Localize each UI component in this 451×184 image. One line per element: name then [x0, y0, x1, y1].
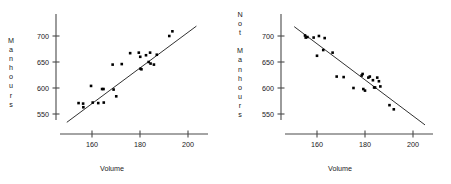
- y-axis-tick-label: 600: [37, 84, 49, 93]
- scatter-point: [335, 75, 338, 78]
- plot-area-left: 550600650700160180200: [0, 0, 225, 184]
- scatter-point: [331, 51, 334, 54]
- scatter-point: [111, 63, 114, 66]
- scatter-point: [82, 102, 85, 105]
- scatter-point: [388, 104, 391, 107]
- figure-root: M a n h o u r s Volume 55060065070016018…: [0, 0, 451, 184]
- regression-line: [67, 26, 197, 122]
- scatter-point: [91, 101, 94, 104]
- scatter-point: [369, 75, 372, 78]
- scatter-point: [149, 62, 152, 65]
- x-axis-tick-label: 160: [86, 140, 98, 149]
- scatter-point: [316, 54, 319, 57]
- scatter-point: [322, 49, 325, 52]
- y-axis-tick-label: 550: [262, 110, 274, 119]
- x-axis-tick-label: 200: [182, 140, 194, 149]
- scatter-point: [153, 63, 156, 66]
- scatter-point: [77, 102, 80, 105]
- scatter-point: [312, 36, 315, 39]
- scatter-point: [376, 76, 379, 79]
- scatter-point: [138, 51, 141, 54]
- scatter-point: [129, 52, 132, 55]
- y-axis-tick-label: 700: [37, 32, 49, 41]
- scatter-point: [379, 85, 382, 88]
- y-axis-tick-label: 600: [262, 84, 274, 93]
- scatter-point: [139, 56, 142, 59]
- scatter-point: [149, 51, 152, 54]
- chart-panel-right: N o t M a n h o u r s Volume 55060065070…: [225, 0, 450, 184]
- x-axis-tick-label: 200: [407, 140, 419, 149]
- chart-panel-left: M a n h o u r s Volume 55060065070016018…: [0, 0, 225, 184]
- scatter-point: [82, 106, 85, 109]
- y-axis-tick-label: 700: [262, 32, 274, 41]
- scatter-point: [306, 36, 309, 39]
- regression-line: [294, 27, 425, 125]
- scatter-point: [171, 30, 174, 33]
- scatter-point: [120, 63, 123, 66]
- scatter-point: [97, 102, 100, 105]
- scatter-point: [102, 88, 105, 91]
- scatter-point: [393, 108, 396, 111]
- scatter-point: [372, 79, 375, 82]
- scatter-point: [112, 88, 115, 91]
- scatter-point: [378, 80, 381, 83]
- y-axis-tick-label: 650: [37, 58, 49, 67]
- scatter-point: [352, 87, 355, 90]
- scatter-point: [323, 37, 326, 40]
- scatter-point: [156, 53, 159, 56]
- scatter-point: [115, 95, 118, 98]
- x-axis-tick-label: 180: [134, 140, 146, 149]
- scatter-point: [342, 76, 345, 79]
- scatter-point: [168, 35, 171, 38]
- scatter-point: [361, 73, 364, 76]
- scatter-point: [102, 101, 105, 104]
- y-axis-tick-label: 550: [37, 110, 49, 119]
- scatter-point: [374, 86, 377, 89]
- scatter-point: [318, 35, 321, 38]
- scatter-point: [145, 54, 148, 57]
- plot-area-right: 550600650700160180200: [225, 0, 450, 184]
- scatter-point: [140, 68, 143, 71]
- scatter-point: [364, 89, 367, 92]
- x-axis-tick-label: 180: [359, 140, 371, 149]
- scatter-point: [90, 85, 93, 88]
- x-axis-tick-label: 160: [311, 140, 323, 149]
- y-axis-tick-label: 650: [262, 58, 274, 67]
